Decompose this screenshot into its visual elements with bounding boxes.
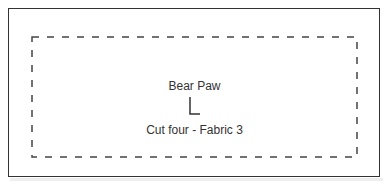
cut-instruction: Cut four - Fabric 3 — [0, 123, 389, 137]
grainline-l-icon — [189, 97, 201, 115]
piece-name: Bear Paw — [0, 79, 389, 93]
